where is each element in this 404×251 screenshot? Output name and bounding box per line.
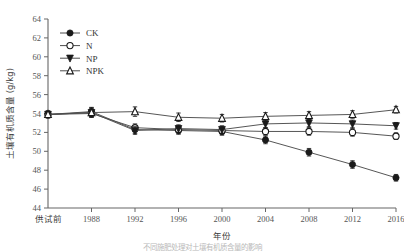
data-marker (262, 128, 268, 134)
legend-item-ck[interactable]: CK (60, 28, 99, 38)
legend-label: CK (86, 28, 99, 38)
y-tick-label: 64 (33, 14, 42, 24)
y-tick-label: 58 (33, 71, 42, 81)
data-marker (393, 133, 399, 139)
x-tick-label: 1992 (127, 214, 144, 224)
data-marker (67, 43, 73, 49)
legend-label: NPK (86, 66, 105, 76)
data-marker (393, 123, 400, 130)
y-tick-label: 48 (33, 165, 42, 175)
x-tick-label: 供试前 (35, 214, 62, 224)
x-tick-label: 1988 (83, 214, 100, 224)
data-marker (349, 129, 355, 135)
y-tick-label: 46 (33, 184, 42, 194)
legend-item-np[interactable]: NP (60, 54, 98, 64)
chart-container: 4446485052545658606264供试前198819921996200… (0, 0, 404, 251)
y-tick-label: 52 (33, 127, 42, 137)
y-tick-label: 44 (33, 203, 42, 213)
y-tick-label: 62 (33, 33, 42, 43)
legend-item-npk[interactable]: NPK (60, 66, 105, 76)
legend-item-n[interactable]: N (60, 41, 93, 51)
soil-organic-matter-line-chart: 4446485052545658606264供试前198819921996200… (0, 0, 404, 251)
legend-label: N (86, 41, 93, 51)
data-marker (67, 30, 73, 36)
data-marker (393, 175, 399, 181)
legend: CKNNPNPK (60, 28, 105, 76)
figure-caption: 不同施肥处理对土壤有机质含量的影响 (0, 243, 404, 251)
y-tick-label: 56 (33, 90, 42, 100)
x-tick-label: 2016 (388, 214, 404, 224)
y-tick-label: 54 (33, 109, 42, 119)
data-marker (393, 106, 400, 113)
x-tick-label: 2008 (301, 214, 318, 224)
x-tick-label: 2000 (214, 214, 231, 224)
x-axis-title: 年份 (213, 231, 231, 241)
data-marker (349, 161, 355, 167)
x-tick-label: 2004 (257, 214, 275, 224)
x-tick-label: 2012 (344, 214, 361, 224)
data-marker (262, 137, 268, 143)
y-axis-title: 土壤有机质含量 (g/kg) (5, 68, 15, 159)
x-tick-label: 1996 (170, 214, 187, 224)
x-axis-ticks: 供试前19881992199620002004200820122016 (35, 208, 404, 224)
legend-label: NP (86, 54, 98, 64)
data-marker (306, 128, 312, 134)
data-marker (306, 149, 312, 155)
y-tick-label: 50 (33, 146, 42, 156)
series-markers (45, 106, 400, 121)
y-tick-label: 60 (33, 52, 42, 62)
